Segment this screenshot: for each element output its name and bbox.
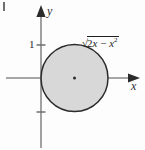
curve-equation-label: √2x − x2 [82,38,119,49]
radicand-minus-sign: − [97,37,109,49]
circle-center-dot [73,77,76,80]
y-axis-arrowhead [36,5,45,17]
y-axis-label: y [47,5,52,17]
figure-canvas: y x 1 √2x − x2 [0,0,145,150]
y-tick-label-one: 1 [29,39,35,50]
x-axis-label: x [131,80,136,92]
radicand-group: 2x − x2 [87,36,119,49]
radicand-exponent: 2 [114,36,118,44]
coordinate-plot [0,0,145,150]
